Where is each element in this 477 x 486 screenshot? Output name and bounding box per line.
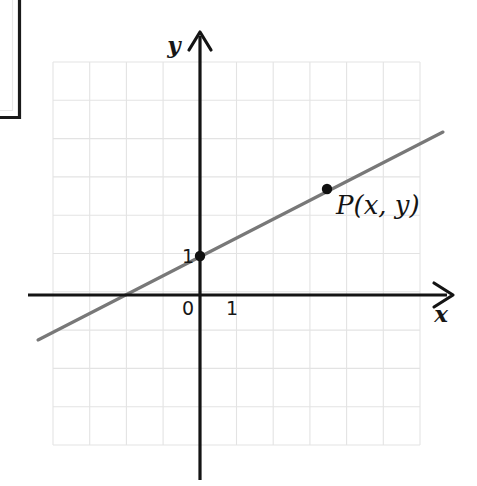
point-p-label: P(x, y)	[335, 190, 420, 220]
canvas-background	[0, 0, 477, 486]
figure-container: y x 0 1 1 P(x, y)	[0, 0, 477, 486]
coordinate-plane-graphic: y x 0 1 1 P(x, y)	[0, 0, 477, 486]
origin-label: 0	[182, 297, 194, 319]
y-axis-label: y	[166, 31, 182, 58]
y-intercept-point	[195, 251, 205, 261]
y-tick-label-1: 1	[182, 245, 194, 267]
point-p-marker	[322, 184, 332, 194]
x-axis-label: x	[433, 300, 448, 327]
x-tick-label-1: 1	[226, 297, 238, 319]
